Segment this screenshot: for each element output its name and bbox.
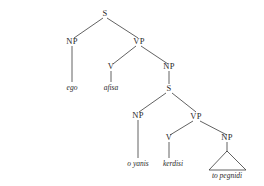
leaf-embedded-subject: o yanis [127, 159, 149, 168]
node-embedded-s: S [167, 83, 172, 93]
branch-embedded-s-to-vp [172, 93, 196, 112]
branch-matrix-vp-to-v [113, 46, 136, 64]
node-embedded-object-np: NP [221, 132, 232, 142]
node-matrix-v: V [108, 61, 115, 71]
node-object-np: NP [163, 61, 174, 71]
node-embedded-np: NP [132, 110, 143, 120]
syntax-tree-diagram: S NP VP V NP S NP VP V NP ego afisa o ya… [0, 0, 264, 186]
branch-embedded-vp-to-v [170, 121, 193, 135]
node-embedded-v: V [166, 132, 173, 142]
tree-canvas: S NP VP V NP S NP VP V NP ego afisa o ya… [0, 0, 264, 186]
node-subject-np: NP [66, 36, 77, 46]
leaf-subject: ego [67, 83, 78, 92]
node-embedded-vp: VP [190, 111, 201, 121]
np-triangle-icon [209, 151, 246, 170]
branch-root-s-to-matrix-vp [107, 18, 138, 38]
leaf-matrix-verb: afisa [104, 83, 119, 92]
leaf-embedded-object: to pegnidi [212, 171, 242, 180]
leaf-embedded-verb: kerdisi [163, 159, 183, 168]
node-root-s: S [103, 8, 108, 18]
branch-root-s-to-subject-np [74, 18, 103, 38]
node-matrix-vp: VP [133, 36, 144, 46]
